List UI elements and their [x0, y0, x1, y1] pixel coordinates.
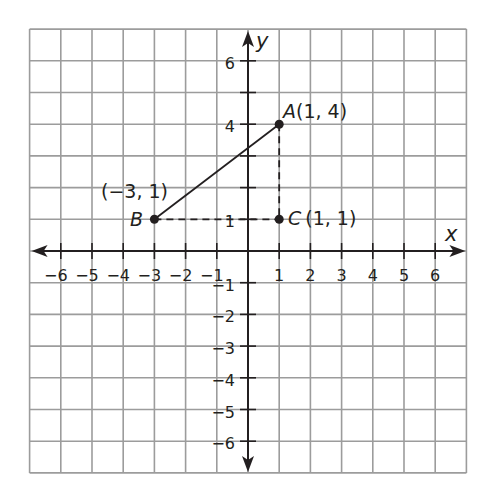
x-tick-label: −4 [106, 266, 130, 285]
x-tick-label: 6 [430, 266, 440, 285]
point-a-name: A [281, 100, 296, 122]
y-tick-label: 6 [225, 54, 235, 73]
point-b-coords: (−3, 1) [101, 180, 168, 202]
coordinate-plane-figure: −6−5−4−3−2−1123456641−1−2−3−4−5−6 x y A(… [0, 0, 481, 499]
point-a-label: A(1, 4) [281, 100, 347, 122]
x-tick-label: 2 [305, 266, 315, 285]
y-tick-label: −2 [211, 307, 235, 326]
x-axis-label: x [444, 222, 458, 246]
coordinate-plane: −6−5−4−3−2−1123456641−1−2−3−4−5−6 x y A(… [0, 0, 481, 499]
y-tick-label: 4 [225, 117, 235, 136]
y-tick-label: −5 [211, 403, 235, 422]
x-tick-label: 1 [274, 266, 284, 285]
x-tick-label: 5 [399, 266, 409, 285]
point-a-coords: (1, 4) [296, 100, 347, 122]
y-tick-label: 1 [225, 212, 235, 231]
x-tick-label: 3 [337, 266, 347, 285]
x-tick-label: −2 [169, 266, 193, 285]
point-c-coords: (1, 1) [305, 207, 356, 229]
point-b-name: B [130, 208, 143, 230]
x-tick-label: 4 [368, 266, 378, 285]
x-tick-label: −3 [138, 266, 162, 285]
y-tick-label: −3 [211, 339, 235, 358]
y-tick-label: −4 [211, 371, 235, 390]
point-c-label: C(1, 1) [288, 207, 356, 229]
axes [32, 31, 466, 472]
point-c-dot [275, 215, 284, 224]
tick-labels: −6−5−4−3−2−1123456641−1−2−3−4−5−6 [44, 54, 440, 453]
y-axis-label: y [255, 29, 269, 53]
point-b-dot [150, 215, 159, 224]
point-c-name: C [288, 207, 302, 229]
y-tick-label: −1 [211, 276, 235, 295]
x-tick-label: −6 [44, 266, 68, 285]
y-tick-label: −6 [211, 434, 235, 453]
x-tick-label: −5 [75, 266, 99, 285]
